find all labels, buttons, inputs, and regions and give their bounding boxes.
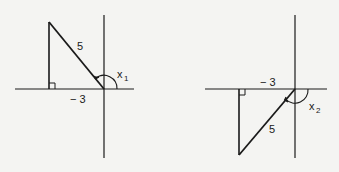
leg-label-right: − 3 <box>260 76 276 88</box>
angle-subscript-right: 2 <box>316 106 321 115</box>
hypotenuse-label-right: 5 <box>269 123 275 135</box>
angle-label-left: x <box>117 68 123 80</box>
angle-label-right: x <box>309 100 315 112</box>
right-angle-marker-left <box>49 83 55 89</box>
figure-left <box>15 15 134 158</box>
hypotenuse-label-left: 5 <box>77 40 83 52</box>
angle-subscript-left: 1 <box>124 74 129 83</box>
diagram-canvas: 5 − 3 x 1 5 − 3 x 2 <box>0 0 339 172</box>
leg-label-left: − 3 <box>70 93 86 105</box>
right-angle-marker-right <box>239 89 245 95</box>
